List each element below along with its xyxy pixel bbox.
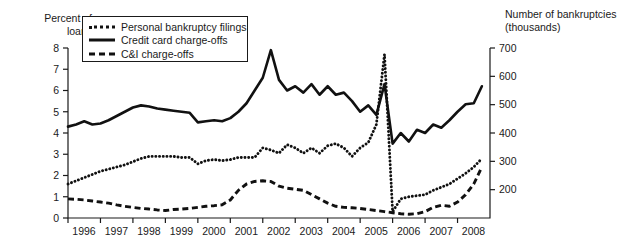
data-series [68,50,482,214]
series-line [68,50,482,144]
solid-line-icon [89,35,115,45]
svg-text:2007: 2007 [429,225,453,237]
dashed-line-icon [89,49,115,59]
legend-label: Credit card charge-offs [121,34,228,46]
svg-text:2005: 2005 [364,225,388,237]
svg-text:3: 3 [53,148,59,160]
series-line [68,54,482,211]
svg-text:2: 2 [53,169,59,181]
svg-text:0: 0 [53,212,59,224]
svg-text:1996: 1996 [72,225,96,237]
legend-label: C&I charge-offs [121,48,194,60]
svg-text:1999: 1999 [170,225,194,237]
legend-item-personal-bankruptcy-filings: Personal bankruptcy filings [89,20,242,34]
svg-text:2004: 2004 [332,225,356,237]
svg-text:8: 8 [53,42,59,54]
svg-text:300: 300 [499,155,517,167]
legend-item-ci-charge-offs: C&I charge-offs [89,47,242,61]
svg-text:500: 500 [499,98,517,110]
svg-text:1998: 1998 [137,225,161,237]
svg-text:700: 700 [499,42,517,54]
series-line [68,167,482,214]
svg-text:2008: 2008 [462,225,486,237]
x-axis-ticks: 1996199719981999200020012002200320042005… [68,218,485,237]
svg-text:600: 600 [499,70,517,82]
svg-text:2003: 2003 [300,225,324,237]
svg-text:2000: 2000 [202,225,226,237]
svg-text:1: 1 [53,191,59,203]
svg-text:6: 6 [53,84,59,96]
legend-label: Personal bankruptcy filings [121,21,246,33]
svg-text:2006: 2006 [397,225,421,237]
chart-figure: Percent of loans Number of bankruptcies … [0,0,626,243]
svg-text:200: 200 [499,183,517,195]
legend-item-credit-card-charge-offs: Credit card charge-offs [89,34,242,48]
legend: Personal bankruptcy filings Credit card … [82,16,248,62]
left-axis-ticks: 012345678 [53,42,68,224]
svg-text:2002: 2002 [267,225,291,237]
svg-text:1997: 1997 [105,225,129,237]
dotted-line-icon [89,22,115,32]
right-axis-ticks: 200300400500600700 [490,42,517,196]
svg-text:4: 4 [53,127,59,139]
svg-text:2001: 2001 [235,225,259,237]
svg-text:400: 400 [499,127,517,139]
svg-text:7: 7 [53,63,59,75]
svg-text:5: 5 [53,106,59,118]
